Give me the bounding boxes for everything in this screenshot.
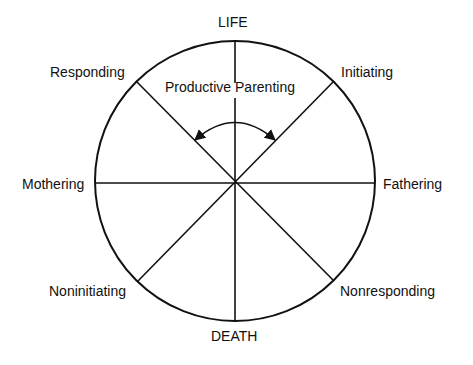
label-productive-parenting: Productive Parenting — [165, 79, 295, 95]
label-life: LIFE — [218, 14, 248, 30]
label-mothering: Mothering — [22, 176, 84, 192]
label-initiating: Initiating — [341, 64, 393, 80]
label-noninitiating: Noninitiating — [49, 283, 126, 299]
label-death: DEATH — [211, 328, 257, 344]
label-fathering: Fathering — [383, 176, 442, 192]
parenting-wheel-diagram: LIFE DEATH Productive Parenting Respondi… — [0, 0, 473, 365]
label-nonresponding: Nonresponding — [340, 283, 435, 299]
label-responding: Responding — [50, 64, 125, 80]
